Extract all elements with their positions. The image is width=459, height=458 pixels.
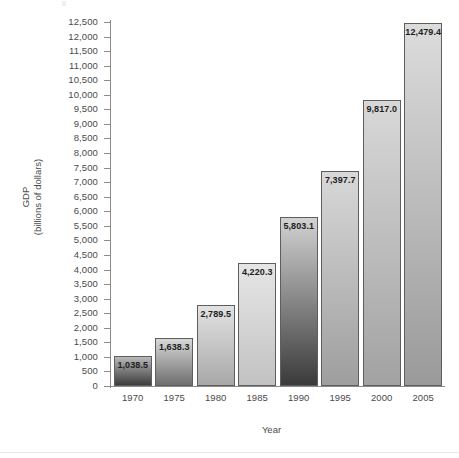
y-axis-tick-label: 5,500 (46, 221, 98, 231)
y-axis-tick-label: 4,500 (46, 250, 98, 260)
y-axis-tick-label-text: 2,500 (46, 308, 98, 318)
bar: 7,397.7 (321, 171, 359, 386)
y-axis-tick-label: 9,500 (46, 104, 98, 114)
y-axis-tick-label-text: 3,500 (46, 279, 98, 289)
y-axis-tick-label-text: 8,000 (46, 148, 98, 158)
x-axis-title-text: Year (262, 424, 281, 435)
y-axis-tick (104, 95, 111, 96)
y-axis-tick-label: 8,000 (46, 148, 98, 158)
y-axis-tick-label-text: 8,500 (46, 133, 98, 143)
y-axis-tick-label-text: 1,500 (46, 337, 98, 347)
bar: 9,817.0 (363, 100, 401, 386)
bar-value-label: 2,789.5 (200, 309, 231, 319)
y-axis-tick (104, 284, 111, 285)
y-axis-tick-label-text: 2,000 (46, 323, 98, 333)
y-axis-tick-label: 11,500 (46, 46, 98, 56)
x-axis-title: Year (0, 424, 459, 435)
y-axis-tick-label-text: 11,500 (46, 46, 98, 56)
bar-value-label: 4,220.3 (242, 267, 273, 277)
y-axis-tick-label-text: 4,000 (46, 265, 98, 275)
y-axis-tick (104, 313, 111, 314)
y-axis-tick-label: 10,500 (46, 75, 98, 85)
y-axis-tick-label: 5,000 (46, 235, 98, 245)
y-axis-tick-label-text: 4,500 (46, 250, 98, 260)
bar-value-label: 5,803.1 (283, 221, 314, 231)
y-axis-tick (104, 80, 111, 81)
y-axis-tick (104, 37, 111, 38)
y-axis-tick-label-text: 12,000 (46, 32, 98, 42)
y-axis-tick (104, 153, 111, 154)
bar-value-label: 7,397.7 (325, 175, 356, 185)
y-axis-tick (104, 270, 111, 271)
x-axis-line (110, 386, 445, 387)
y-axis-tick-label-text: 11,000 (46, 61, 98, 71)
y-axis-tick (104, 226, 111, 227)
y-axis-tick-label: 1,500 (46, 337, 98, 347)
y-axis-tick (104, 255, 111, 256)
bar-value-label: 1,638.3 (159, 342, 190, 352)
y-axis-tick (104, 51, 111, 52)
y-axis-tick (104, 211, 111, 212)
y-axis-tick-label-text: 12,500 (46, 17, 98, 27)
y-axis-tick-label: 4,000 (46, 265, 98, 275)
y-axis-title-line2: (billions of dollars) (32, 127, 44, 267)
y-axis-tick-label-text: 5,500 (46, 221, 98, 231)
y-axis-tick (104, 328, 111, 329)
y-axis-tick-label: 500 (46, 366, 98, 376)
bar: 1,638.3 (155, 338, 193, 386)
y-axis-tick-label-text: 10,000 (46, 90, 98, 100)
y-axis-tick-label-text: 6,000 (46, 206, 98, 216)
bar: 4,220.3 (238, 263, 276, 386)
bar: 2,789.5 (197, 305, 235, 386)
y-axis-tick-label: 6,500 (46, 192, 98, 202)
y-axis-tick (104, 22, 111, 23)
y-axis-tick-label: 1,000 (46, 352, 98, 362)
y-axis-tick-label-text: 0 (46, 381, 98, 391)
y-axis-tick-label: 6,000 (46, 206, 98, 216)
y-axis-tick (104, 138, 111, 139)
page-artifact-mark (62, 1, 66, 6)
y-axis-tick-label-text: 9,500 (46, 104, 98, 114)
y-axis-tick (104, 342, 111, 343)
y-axis-tick-label-text: 3,000 (46, 294, 98, 304)
y-axis-tick-label-text: 7,000 (46, 177, 98, 187)
bar: 5,803.1 (280, 217, 318, 386)
y-axis-tick (104, 371, 111, 372)
y-axis-tick-label: 7,500 (46, 163, 98, 173)
y-axis-tick-label-text: 9,000 (46, 119, 98, 129)
y-axis-tick-label-text: 1,000 (46, 352, 98, 362)
y-axis-tick-label: 11,000 (46, 61, 98, 71)
y-axis-tick (104, 109, 111, 110)
bar-value-label: 9,817.0 (366, 104, 397, 114)
y-axis-tick-label-text: 7,500 (46, 163, 98, 173)
y-axis-tick-label: 2,000 (46, 323, 98, 333)
y-axis-tick (104, 240, 111, 241)
bar-value-label: 1,038.5 (117, 360, 148, 370)
y-axis-tick-label-text: 10,500 (46, 75, 98, 85)
y-axis-tick (104, 357, 111, 358)
y-axis-tick (104, 66, 111, 67)
y-axis-tick-label: 3,500 (46, 279, 98, 289)
bar: 12,479.4 (404, 23, 442, 386)
y-axis-tick-label: 2,500 (46, 308, 98, 318)
y-axis-tick-label-text: 6,500 (46, 192, 98, 202)
y-axis-line (110, 20, 111, 388)
y-axis-tick-label: 3,000 (46, 294, 98, 304)
y-axis-tick-label-text: 5,000 (46, 235, 98, 245)
y-axis-tick (104, 299, 111, 300)
y-axis-tick (104, 124, 111, 125)
footer-divider (0, 452, 459, 453)
x-axis-tick-label: 2005 (393, 392, 453, 403)
y-axis-tick (104, 182, 111, 183)
y-axis-tick-label-text: 500 (46, 366, 98, 376)
y-axis-title: GDP (billions of dollars) (20, 127, 44, 267)
y-axis-tick-label: 10,000 (46, 90, 98, 100)
y-axis-title-line1: GDP (20, 187, 31, 208)
y-axis-tick-label: 0 (46, 381, 98, 391)
y-axis-tick (104, 197, 111, 198)
y-axis-tick-label: 7,000 (46, 177, 98, 187)
gdp-bar-chart-figure: 12,50012,00011,50011,00010,50010,0009,50… (0, 0, 459, 458)
y-axis-tick (104, 168, 111, 169)
bar-value-label: 12,479.4 (405, 27, 441, 37)
y-axis-tick-label: 12,500 (46, 17, 98, 27)
